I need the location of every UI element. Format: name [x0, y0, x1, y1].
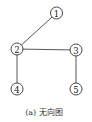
graph-canvas: 1 2 3 4 5	[0, 0, 92, 122]
figure-caption: (a) 无向图	[0, 106, 88, 117]
node-1: 1	[51, 7, 63, 19]
nodes-layer: 1 2 3 4 5	[11, 7, 82, 95]
node-5-label: 5	[73, 85, 78, 95]
node-4: 4	[11, 83, 23, 95]
node-5: 5	[70, 83, 82, 95]
node-1-label: 1	[54, 9, 59, 19]
node-3: 3	[70, 44, 82, 56]
node-2: 2	[11, 43, 23, 55]
node-3-label: 3	[73, 46, 78, 56]
edge-2-3	[17, 49, 76, 50]
node-4-label: 4	[14, 85, 19, 95]
edge-1-2	[17, 13, 57, 49]
edges-layer	[17, 13, 76, 89]
node-2-label: 2	[14, 45, 19, 55]
